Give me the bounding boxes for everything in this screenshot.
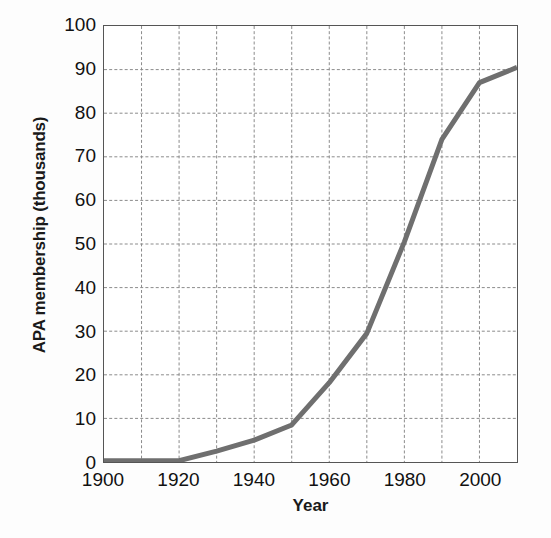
y-axis-tick-label: 60 [50, 190, 96, 209]
data-line [104, 67, 517, 460]
y-axis-tick-label: 20 [50, 365, 96, 384]
y-axis-tick-label: 70 [50, 146, 96, 165]
x-axis-tick-label: 2000 [435, 470, 525, 489]
y-axis-tick-label: 50 [50, 234, 96, 253]
plot-area [103, 25, 518, 463]
data-series-group [104, 67, 517, 460]
y-axis-tick-label: 10 [50, 409, 96, 428]
y-axis-tick-label: 30 [50, 322, 96, 341]
y-axis-tick-label: 80 [50, 103, 96, 122]
y-axis-tick-label: 90 [50, 59, 96, 78]
plot-svg [104, 26, 517, 462]
y-axis-tick-label: 40 [50, 278, 96, 297]
y-axis-tick-labels: 0102030405060708090100 [40, 0, 96, 538]
x-axis-title: Year [103, 496, 518, 516]
y-axis-tick-label: 100 [50, 15, 96, 34]
chart-figure: APA membership (thousands) 0102030405060… [0, 0, 551, 538]
grid-lines [104, 26, 517, 462]
